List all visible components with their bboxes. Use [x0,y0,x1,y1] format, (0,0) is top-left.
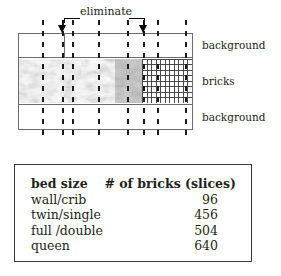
cell-bed-size: wall/crib [31,192,103,208]
down-arrow-icon [58,20,67,33]
leader-line-right [129,18,145,19]
table-row: twin/single 456 [31,207,236,223]
table-row: wall/crib 96 [31,192,236,208]
guide-line [185,20,187,140]
table-row: full /double 504 [31,223,236,239]
band-label-background-bottom: background [202,111,266,123]
cell-bed-size: queen [31,238,103,254]
bed-size-table: bed size # of bricks (slices) wall/crib … [14,164,252,262]
down-arrow-icon [139,20,148,33]
cell-bed-size: full /double [31,223,103,239]
cell-brick-count: 96 [103,192,236,208]
guide-line [98,20,100,140]
table-row: queen 640 [31,238,236,254]
guide-line-eliminate-right [143,20,145,140]
noise-texture-svg [19,59,142,103]
guide-line [157,20,159,140]
band-label-background-top: background [202,39,266,51]
band-label-bricks: bricks [202,75,235,87]
column-header-brick-count: # of bricks (slices) [103,176,236,192]
guide-line [72,20,74,140]
column-header-bed-size: bed size [31,176,103,192]
bed-size-table-grid: bed size # of bricks (slices) wall/crib … [31,176,236,254]
noise-texture-region [19,59,142,103]
band-background-top [18,33,193,58]
guide-line [42,20,44,140]
cell-bed-size: twin/single [31,207,103,223]
cell-brick-count: 504 [103,223,236,239]
table-header-row: bed size # of bricks (slices) [31,176,236,192]
band-background-bottom [18,104,193,130]
top-band-divider [64,34,65,58]
leader-line-left [64,18,80,19]
cell-brick-count: 640 [103,238,236,254]
cell-brick-count: 456 [103,207,236,223]
guide-line-eliminate-left [62,20,64,140]
bed-size-diagram: eliminate [0,0,281,150]
guide-line [127,20,129,140]
eliminate-label: eliminate [80,6,132,18]
